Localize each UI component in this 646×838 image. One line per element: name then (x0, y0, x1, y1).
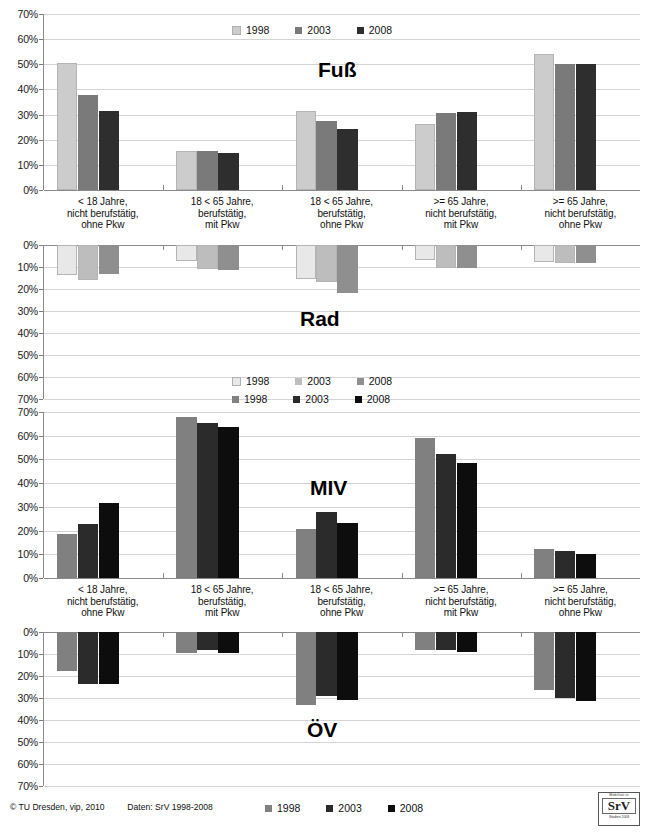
x-tick-label: < 18 Jahre,nicht berufstätig,ohne Pkw (43, 584, 162, 619)
legend-item-1998[interactable]: 1998 (232, 393, 267, 405)
bar-miv-2008-2 (337, 523, 357, 578)
bar-miv-2003-2 (316, 512, 336, 578)
bar-group (521, 14, 640, 190)
bar-fuss-1998-2 (296, 111, 316, 190)
legend-item-2003[interactable]: 2003 (295, 375, 330, 387)
bar-miv-1998-1 (176, 417, 196, 578)
legend-label: 2003 (338, 802, 361, 814)
y-tick-label: 40% (0, 478, 38, 488)
chart-panel-oev: 0%10%20%30%40%50%60%70% (0, 632, 646, 786)
legend-label: 1998 (246, 24, 269, 36)
x-axis-labels-fuss: < 18 Jahre,nicht berufstätig,ohne Pkw18 … (43, 196, 640, 231)
legend-oev: 199820032008 (265, 802, 449, 814)
y-tick-label: 0% (0, 627, 38, 637)
bar-fuss-2003-1 (197, 151, 217, 190)
bar-miv-2008-3 (457, 463, 477, 578)
y-tick-label: 60% (0, 759, 38, 769)
bar-oev-2008-3 (457, 632, 477, 652)
x-tick-label: 18 < 65 Jahre,berufstätig,mit Pkw (162, 584, 281, 619)
footer-credits: © TU Dresden, vip, 2010 Daten: SrV 1998-… (10, 802, 213, 812)
y-tick-label: 40% (0, 84, 38, 94)
legend-label: 2008 (369, 24, 392, 36)
bar-miv-2003-4 (555, 551, 575, 578)
x-axis-labels-miv: < 18 Jahre,nicht berufstätig,ohne Pkw18 … (43, 584, 640, 619)
legend-swatch-icon (232, 26, 241, 35)
bar-rad-1998-3 (415, 245, 435, 260)
footer: © TU Dresden, vip, 2010 Daten: SrV 1998-… (0, 788, 646, 838)
legend-item-1998[interactable]: 1998 (232, 375, 269, 387)
y-tick-label: 20% (0, 284, 38, 294)
legend-swatch-icon (293, 396, 300, 403)
legend-swatch-icon (232, 396, 239, 403)
chart-title-rad: Rad (300, 307, 340, 331)
legend-item-2008[interactable]: 2008 (388, 802, 423, 814)
y-tick-label: 60% (0, 431, 38, 441)
bar-miv-2003-0 (78, 524, 98, 578)
y-axis-miv: 0%10%20%30%40%50%60%70% (0, 412, 38, 578)
y-tick-mark (39, 190, 43, 191)
bar-group (282, 632, 401, 786)
y-axis-oev: 0%10%20%30%40%50%60%70% (0, 632, 38, 786)
bar-rad-2003-3 (436, 245, 456, 268)
chart-title-fuss: Fuß (318, 58, 356, 82)
legend-swatch-icon (355, 396, 362, 403)
gridline (44, 578, 640, 579)
bar-fuss-1998-3 (415, 124, 435, 190)
bar-rad-2008-3 (457, 245, 477, 268)
bar-fuss-1998-1 (176, 151, 196, 190)
y-tick-label: 70% (0, 394, 38, 404)
bar-group (163, 14, 282, 190)
bar-rad-2003-0 (78, 245, 98, 280)
bar-fuss-2003-0 (78, 95, 98, 190)
bar-group (402, 14, 521, 190)
bar-oev-1998-4 (534, 632, 554, 690)
bar-oev-2008-2 (337, 632, 357, 700)
bar-group (282, 14, 401, 190)
y-tick-label: 0% (0, 185, 38, 195)
y-tick-mark (39, 786, 43, 787)
legend-item-2008[interactable]: 2008 (357, 375, 392, 387)
y-tick-label: 40% (0, 715, 38, 725)
legend-item-1998[interactable]: 1998 (265, 802, 300, 814)
bar-group (44, 632, 163, 786)
y-tick-label: 60% (0, 372, 38, 382)
y-tick-label: 10% (0, 262, 38, 272)
legend-item-2003[interactable]: 2003 (326, 802, 361, 814)
gridline (44, 190, 640, 191)
legend-swatch-icon (357, 378, 364, 385)
logo-bottom-text: Städten 2008 (599, 814, 639, 820)
y-tick-label: 30% (0, 110, 38, 120)
legend-swatch-icon (232, 377, 241, 386)
bar-fuss-1998-4 (534, 54, 554, 190)
bar-oev-1998-0 (57, 632, 77, 671)
bar-miv-2008-4 (576, 554, 596, 578)
y-tick-label: 50% (0, 454, 38, 464)
bar-group (521, 412, 640, 578)
bar-rad-2003-4 (555, 245, 575, 263)
y-tick-label: 30% (0, 502, 38, 512)
y-axis-fuss: 0%10%20%30%40%50%60%70% (0, 14, 38, 190)
legend-item-2008[interactable]: 2008 (355, 393, 390, 405)
y-tick-label: 30% (0, 306, 38, 316)
bar-group (402, 245, 521, 399)
bar-oev-2003-4 (555, 632, 575, 698)
legend-item-1998[interactable]: 1998 (232, 24, 269, 36)
legend-item-2003[interactable]: 2003 (293, 393, 328, 405)
bar-group (163, 632, 282, 786)
plot-area-oev (43, 632, 640, 786)
legend-label: 2008 (367, 393, 390, 405)
legend-label: 2003 (307, 24, 330, 36)
x-tick-label: 18 < 65 Jahre,berufstätig,ohne Pkw (282, 196, 401, 231)
bar-fuss-2008-2 (337, 129, 357, 190)
x-tick-label: >= 65 Jahre,nicht berufstätig,ohne Pkw (521, 196, 640, 231)
x-tick-label: 18 < 65 Jahre,berufstätig,mit Pkw (162, 196, 281, 231)
legend-swatch-icon (357, 27, 364, 34)
x-tick-label: >= 65 Jahre,nicht berufstätig,mit Pkw (401, 196, 520, 231)
chart-title-oev: ÖV (307, 718, 337, 742)
legend-miv: 199820032008 (232, 393, 416, 405)
bar-oev-1998-3 (415, 632, 435, 650)
legend-item-2008[interactable]: 2008 (357, 24, 392, 36)
y-axis-rad: 0%10%20%30%40%50%60%70% (0, 245, 38, 399)
footer-copyright: © TU Dresden, vip, 2010 (10, 802, 105, 812)
legend-item-2003[interactable]: 2003 (295, 24, 330, 36)
